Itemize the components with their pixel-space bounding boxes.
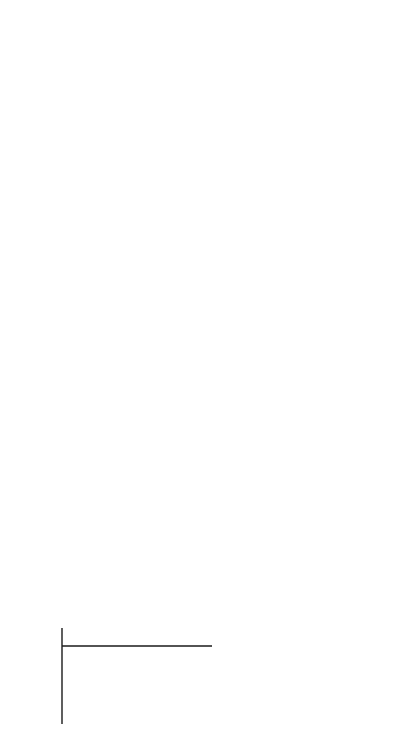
connector-lines bbox=[62, 628, 212, 724]
decision-analysis-diagram bbox=[0, 0, 401, 744]
